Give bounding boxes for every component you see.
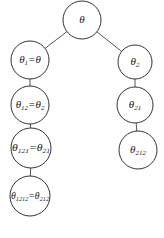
tree-node-n1: θ1=θ [11,41,49,79]
tree-node-n2: θ2 [118,45,152,79]
tree-node-n21: θ21 [117,87,153,123]
edge-root-n1 [45,32,67,49]
edge-root-n2 [97,32,122,52]
node-label: θ [79,13,85,25]
tree-node-n212: θ212 [119,131,157,169]
tree-node-root: θ [63,1,101,39]
tree-node-n1212: θ1212=θ212 [10,176,50,216]
tree-nodes: θθ1=θθ2θ12=θ2θ21θ121=θ21θ212θ1212=θ212 [10,1,157,216]
edge-n21-n212 [136,123,137,131]
tree-node-n121: θ121=θ21 [11,128,51,168]
tree-diagram: θθ1=θθ2θ12=θ2θ21θ121=θ21θ212θ1212=θ212 [0,0,164,238]
node-label: θ12=θ2 [16,98,45,112]
node-label: θ1=θ [19,53,41,67]
tree-node-n12: θ12=θ2 [11,86,49,124]
